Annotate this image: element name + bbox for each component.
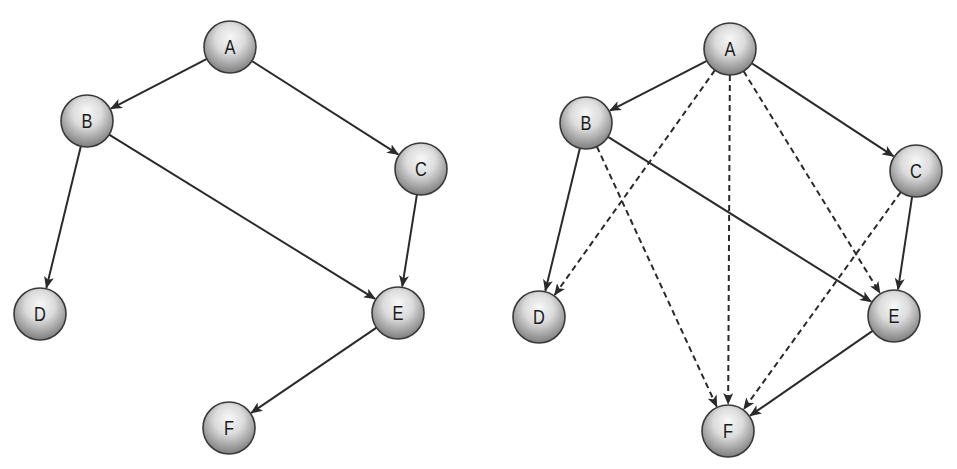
node-label: F bbox=[224, 416, 234, 439]
edge-b-e bbox=[608, 137, 871, 302]
node-label: C bbox=[415, 157, 427, 180]
graph-svg: ABCDEFABCDEF bbox=[0, 0, 957, 469]
edge-a-e-dashed bbox=[744, 71, 880, 293]
edge-a-c bbox=[252, 61, 398, 154]
node-label: E bbox=[889, 304, 900, 327]
original-graph-nodes: ABCDEF bbox=[14, 21, 447, 454]
diagram-canvas: ABCDEFABCDEF bbox=[0, 0, 957, 469]
node-f: F bbox=[702, 405, 754, 457]
node-e: E bbox=[372, 287, 424, 339]
node-c: C bbox=[890, 145, 942, 197]
edge-c-e bbox=[402, 195, 417, 287]
node-d: D bbox=[513, 291, 565, 343]
node-label: D bbox=[533, 305, 545, 328]
edge-c-e bbox=[898, 197, 912, 290]
node-label: B bbox=[581, 111, 592, 134]
node-b: B bbox=[61, 95, 113, 147]
edge-a-b bbox=[111, 59, 207, 109]
edge-b-d bbox=[46, 146, 80, 288]
node-a: A bbox=[704, 23, 756, 75]
edge-b-f-dashed bbox=[597, 147, 717, 407]
node-label: A bbox=[725, 37, 737, 60]
node-b: B bbox=[560, 97, 612, 149]
edge-e-f bbox=[251, 328, 376, 413]
edge-a-c bbox=[752, 63, 894, 156]
node-label: A bbox=[225, 35, 237, 58]
node-label: B bbox=[82, 109, 93, 132]
node-label: E bbox=[393, 301, 404, 324]
edges-layer bbox=[46, 59, 912, 416]
transitive-closure-graph-nodes: ABCDEF bbox=[513, 23, 942, 457]
edge-a-f-dashed bbox=[728, 75, 730, 404]
node-d: D bbox=[14, 288, 66, 340]
node-e: E bbox=[868, 290, 920, 342]
edge-b-d bbox=[545, 148, 580, 290]
node-label: D bbox=[34, 302, 46, 325]
node-label: C bbox=[910, 159, 922, 182]
node-f: F bbox=[203, 402, 255, 454]
node-c: C bbox=[395, 143, 447, 195]
edge-b-e bbox=[109, 135, 375, 299]
node-a: A bbox=[204, 21, 256, 73]
node-label: F bbox=[723, 419, 733, 442]
edge-a-b bbox=[610, 61, 707, 111]
